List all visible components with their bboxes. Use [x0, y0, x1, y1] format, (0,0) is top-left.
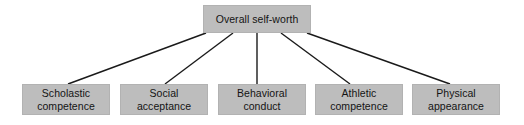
node-athletic-competence: Athletic competence — [315, 84, 403, 115]
self-worth-hierarchy-diagram: Overall self-worth Scholastic competence… — [0, 0, 524, 125]
node-physical-appearance: Physical appearance — [412, 84, 500, 115]
connector-line-athletic — [281, 33, 350, 84]
node-label-overall-self-worth: Overall self-worth — [212, 13, 303, 26]
node-social-acceptance: Social acceptance — [120, 84, 208, 115]
connector-line-scholastic — [68, 33, 206, 84]
node-label-social-acceptance: Social acceptance — [133, 87, 195, 113]
connector-line-physical — [307, 33, 450, 84]
node-label-physical-appearance: Physical appearance — [424, 87, 488, 113]
node-scholastic-competence: Scholastic competence — [22, 84, 110, 115]
node-label-scholastic-competence: Scholastic competence — [33, 87, 99, 113]
node-behavioral-conduct: Behavioral conduct — [218, 84, 306, 115]
connector-line-social — [165, 33, 233, 84]
node-overall-self-worth: Overall self-worth — [203, 5, 311, 33]
node-label-behavioral-conduct: Behavioral conduct — [233, 87, 291, 113]
node-label-athletic-competence: Athletic competence — [326, 87, 392, 113]
